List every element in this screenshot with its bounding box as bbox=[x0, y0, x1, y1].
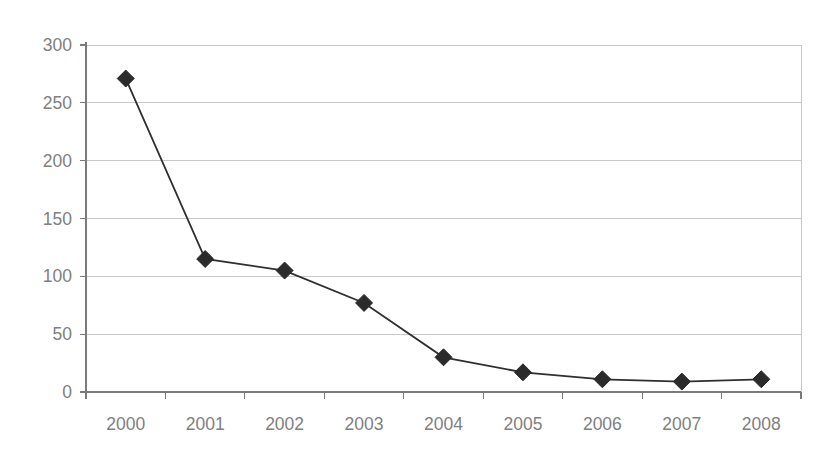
data-point-2005 bbox=[514, 364, 531, 381]
y-axis-ticks bbox=[80, 45, 86, 392]
x-axis-tick-labels: 200020012002200320042005200620072008 bbox=[106, 414, 780, 434]
y-axis-label-0: 0 bbox=[62, 382, 72, 402]
x-axis-label-2001: 2001 bbox=[186, 414, 225, 434]
data-point-2004 bbox=[435, 349, 452, 366]
y-axis-label-200: 200 bbox=[43, 151, 72, 171]
x-axis-ticks bbox=[86, 392, 801, 399]
line-chart-svg: 050100150200250300 200020012002200320042… bbox=[0, 0, 827, 469]
x-axis-label-2003: 2003 bbox=[345, 414, 384, 434]
data-point-2008 bbox=[753, 371, 770, 388]
gridlines-group bbox=[86, 45, 801, 334]
y-axis-label-300: 300 bbox=[43, 35, 72, 55]
data-point-2003 bbox=[356, 294, 373, 311]
data-point-markers bbox=[117, 70, 770, 390]
data-point-2006 bbox=[594, 371, 611, 388]
y-axis-label-250: 250 bbox=[43, 93, 72, 113]
x-axis-label-2006: 2006 bbox=[583, 414, 622, 434]
x-axis-label-2004: 2004 bbox=[424, 414, 463, 434]
data-series-line bbox=[126, 79, 762, 382]
x-axis-label-2002: 2002 bbox=[265, 414, 304, 434]
y-axis-label-100: 100 bbox=[43, 266, 72, 286]
data-point-2001 bbox=[197, 250, 214, 267]
x-axis-label-2007: 2007 bbox=[662, 414, 701, 434]
x-axis-label-2008: 2008 bbox=[742, 414, 781, 434]
series-polyline bbox=[126, 79, 762, 382]
chart-container: 050100150200250300 200020012002200320042… bbox=[0, 0, 827, 469]
plot-frame bbox=[86, 42, 801, 392]
x-axis-label-2000: 2000 bbox=[106, 414, 145, 434]
y-axis-label-150: 150 bbox=[43, 209, 72, 229]
x-axis-label-2005: 2005 bbox=[503, 414, 542, 434]
y-axis-tick-labels: 050100150200250300 bbox=[43, 35, 72, 402]
data-point-2007 bbox=[673, 373, 690, 390]
data-point-2000 bbox=[117, 70, 134, 87]
y-axis-label-50: 50 bbox=[53, 324, 73, 344]
